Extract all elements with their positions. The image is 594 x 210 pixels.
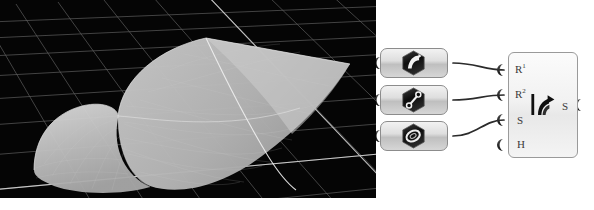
viewport-scene [0,0,376,198]
wire-line-to-r2 [453,95,504,100]
input-label-s: S [517,115,523,126]
viewport-canvas [0,0,376,198]
component-input-ports[interactable] [497,64,503,151]
input-label-r2: R2 [515,88,526,100]
rail-revolve-component[interactable]: R1 R2 S H S [508,52,578,158]
rail-revolve-icon [529,91,557,119]
output-label-s: S [562,101,568,112]
port-h [497,139,503,151]
curve-icon [400,50,427,76]
rhino-perspective-viewport[interactable] [0,0,376,198]
line-icon [400,87,427,113]
input-label-h: H [517,139,525,150]
wire-curve-to-r1 [453,63,504,70]
circle-icon [400,123,427,149]
connection-wires [453,63,504,136]
input-label-r1: R1 [515,63,526,75]
grasshopper-node-canvas[interactable]: R1 R2 S H S [376,0,594,210]
wire-circle-to-s [453,120,504,136]
